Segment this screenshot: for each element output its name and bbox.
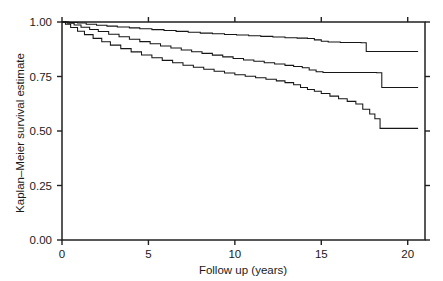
x-axis-tick-labels: 05101520 <box>59 248 414 260</box>
x-axis-title: Follow up (years) <box>199 264 287 276</box>
curve-middle <box>62 22 418 87</box>
x-tick-label: 15 <box>315 248 328 260</box>
x-tick-label: 0 <box>59 248 65 260</box>
y-tick-label: 0.00 <box>30 234 52 246</box>
y-tick-label: 1.00 <box>30 16 52 28</box>
kaplan-meier-figure: 0.000.250.500.751.00 05101520 Follow up … <box>0 0 443 281</box>
x-tick-label: 5 <box>145 248 151 260</box>
x-tick-label: 10 <box>228 248 241 260</box>
curve-lower <box>62 22 418 128</box>
y-axis-tick-labels: 0.000.250.500.751.00 <box>30 16 52 246</box>
y-tick-label: 0.75 <box>30 71 52 83</box>
y-tick-label: 0.50 <box>30 125 52 137</box>
survival-plot: 0.000.250.500.751.00 05101520 Follow up … <box>0 0 443 281</box>
curve-upper <box>62 22 418 51</box>
survival-curves <box>62 22 418 128</box>
y-axis-title: Kaplan–Meier survival estimate <box>14 53 26 213</box>
y-tick-label: 0.25 <box>30 180 52 192</box>
plot-frame <box>62 22 425 240</box>
x-tick-label: 20 <box>401 248 414 260</box>
